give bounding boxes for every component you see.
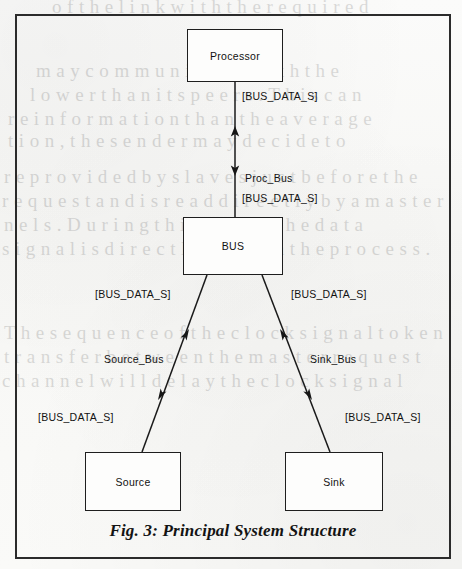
block-bus-label: BUS [222, 240, 245, 252]
signal-label-source: [BUS_DATA_S] [38, 411, 114, 423]
block-sink: Sink [285, 452, 383, 511]
edge-name-sink-bus: Sink_Bus [310, 353, 356, 365]
signal-label-processor-upper: [BUS_DATA_S] [242, 90, 318, 102]
block-processor: Processor [187, 29, 283, 82]
signal-label-processor-lower: [BUS_DATA_S] [242, 192, 318, 204]
signal-label-bus-right: [BUS_DATA_S] [291, 288, 367, 300]
block-sink-label: Sink [323, 476, 345, 488]
edge-name-source-bus: Source_Bus [104, 353, 164, 365]
edge-name-proc-bus: Proc_Bus [245, 172, 293, 184]
block-source: Source [85, 452, 181, 511]
figure-caption: Fig. 3: Principal System Structure [17, 521, 449, 541]
block-source-label: Source [115, 476, 150, 488]
figure-frame-border [15, 14, 451, 559]
figure-page: o f t h e l i n k w i t h t h e r e q u … [0, 0, 462, 569]
block-bus: BUS [183, 217, 283, 275]
signal-label-sink: [BUS_DATA_S] [345, 411, 421, 423]
signal-label-bus-left: [BUS_DATA_S] [95, 288, 171, 300]
block-processor-label: Processor [210, 50, 260, 62]
